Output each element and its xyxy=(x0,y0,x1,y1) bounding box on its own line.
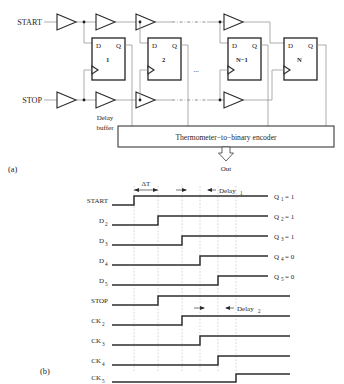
delay-buffer-label-line2: buffer xyxy=(97,124,115,132)
waveform-row-ck2: CK 2 xyxy=(91,316,290,327)
q2-label: Q xyxy=(274,213,279,221)
thermometer-to-binary-encoder: Thermometer−to−binary encoder xyxy=(118,126,334,147)
figure-container: D Q 1 D Q 2 D Q N−1 D Q N ... xyxy=(0,0,344,384)
junction-dot xyxy=(139,99,142,102)
stop-buffer-1 xyxy=(57,92,76,108)
figure-b-caption: (b) xyxy=(40,367,50,376)
waveform-label-ck3: CK xyxy=(91,337,101,345)
start-input-label: START xyxy=(17,18,42,27)
waveform-label-stop: STOP xyxy=(91,297,108,305)
ff2-d-label: D xyxy=(152,42,157,50)
waveform-row-ck4: CK 4 xyxy=(91,356,290,367)
q5-label: Q xyxy=(274,273,279,281)
junction-dot xyxy=(219,21,222,24)
flipflop-2: D Q 2 xyxy=(148,38,181,80)
figure-a-block-diagram: D Q 1 D Q 2 D Q N−1 D Q N ... xyxy=(8,14,334,174)
junction-dot xyxy=(219,99,222,102)
waveform-sub-d5: 5 xyxy=(105,281,108,287)
waveform-row-ck3: CK 3 xyxy=(91,336,290,347)
delta-t-annotation: ΔT xyxy=(134,180,158,192)
waveform-row-ck5: CK 5 xyxy=(91,374,290,384)
waveform-label-d3: D xyxy=(99,237,104,245)
delay2-label: Delay xyxy=(237,305,254,313)
q3-subscript: 3 xyxy=(281,236,284,242)
start-buffer-n xyxy=(224,14,243,30)
delay1-label: Delay xyxy=(219,187,236,195)
start-buffer-2 xyxy=(96,14,115,30)
encoder-label: Thermometer−to−binary encoder xyxy=(175,133,277,142)
ffn1-q-label: Q xyxy=(252,42,257,50)
ffn-q-label: Q xyxy=(308,42,313,50)
waveform-label-ck2: CK xyxy=(91,317,101,325)
waveform-sub-ck4: 4 xyxy=(102,361,105,367)
waveform-sub-ck3: 3 xyxy=(102,341,105,347)
delay-buffer-label-line1: Delay xyxy=(97,114,114,122)
ff1-number: 1 xyxy=(106,56,109,63)
waveform-label-d4: D xyxy=(99,257,104,265)
delay1-subscript: 1 xyxy=(240,190,243,196)
encoder-output-arrow xyxy=(219,147,234,161)
ffn1-number: N−1 xyxy=(236,56,248,63)
delta-t-label: ΔT xyxy=(142,180,152,188)
waveform-row-d2: D 2 Q 2 = 1 xyxy=(99,213,295,227)
junction-dot xyxy=(139,21,142,24)
q3-value: = 1 xyxy=(285,233,295,241)
waveform-row-d4: D 4 Q 4 = 0 xyxy=(99,253,295,267)
flipflop-n: D Q N xyxy=(284,38,317,80)
flipflop-n-minus-1: D Q N−1 xyxy=(228,38,261,80)
waveform-label-start: START xyxy=(87,197,109,205)
ff1-d-label: D xyxy=(96,42,101,50)
waveform-sub-d3: 3 xyxy=(105,241,108,247)
waveform-label-ck4: CK xyxy=(91,357,101,365)
stop-input-label: STOP xyxy=(22,96,42,105)
delay2-annotation: Delay 2 xyxy=(194,305,261,314)
waveform-row-d5: D 5 Q 5 = 0 xyxy=(99,273,295,287)
q5-subscript: 5 xyxy=(281,276,284,282)
waveform-row-d3: D 3 Q 3 = 1 xyxy=(99,233,295,247)
ff1-q-label: Q xyxy=(116,42,121,50)
out-label: Out xyxy=(221,165,232,173)
q4-label: Q xyxy=(274,253,279,261)
waveform-sub-d4: 4 xyxy=(105,261,108,267)
q2-value: = 1 xyxy=(285,213,295,221)
q1-label: Q xyxy=(274,193,279,201)
waveform-label-ck5: CK xyxy=(91,374,101,382)
waveform-row-stop: STOP xyxy=(91,296,290,305)
waveform-sub-ck5: 5 xyxy=(102,378,105,384)
junction-dot xyxy=(83,99,86,102)
junction-dot xyxy=(83,21,86,24)
q1-subscript: 1 xyxy=(281,196,284,202)
flipflop-ellipsis: ... xyxy=(193,66,199,74)
stop-delay-buffer xyxy=(96,92,115,108)
delay1-annotation: Delay 1 xyxy=(176,187,243,196)
timing-guides xyxy=(134,186,236,372)
q3-label: Q xyxy=(274,233,279,241)
start-buffer-1 xyxy=(57,14,76,30)
figure-a-caption: (a) xyxy=(8,165,18,174)
q4-value: = 0 xyxy=(285,253,295,261)
waveform-row-start: START Q 1 = 1 xyxy=(87,193,295,205)
ff2-q-label: Q xyxy=(172,42,177,50)
ffn-number: N xyxy=(297,56,302,63)
ffn1-d-label: D xyxy=(232,42,237,50)
ffn-d-label: D xyxy=(288,42,293,50)
waveform-sub-d2: 2 xyxy=(105,221,108,227)
delay2-subscript: 2 xyxy=(258,308,261,314)
waveform-label-d2: D xyxy=(99,217,104,225)
q1-value: = 1 xyxy=(285,193,295,201)
waveform-sub-ck2: 2 xyxy=(102,321,105,327)
q5-value: = 0 xyxy=(285,273,295,281)
q4-subscript: 4 xyxy=(281,256,284,262)
stop-buffer-n xyxy=(224,92,243,108)
waveform-label-d5: D xyxy=(99,277,104,285)
figure-b-timing-diagram: ΔT Delay 1 Delay 2 START Q 1 = 1 xyxy=(40,180,295,384)
q2-subscript: 2 xyxy=(281,216,284,222)
flipflop-1: D Q 1 xyxy=(92,38,125,80)
